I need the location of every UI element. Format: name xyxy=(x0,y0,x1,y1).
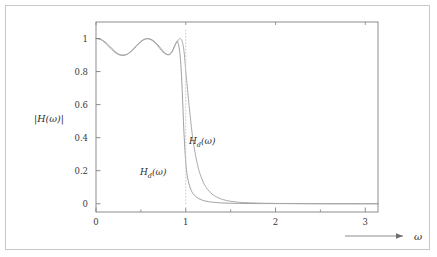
curve-label-hd-right: Hd(ω) xyxy=(189,136,215,149)
x-tick-label: 1 xyxy=(183,217,188,227)
curves-layer xyxy=(96,30,378,203)
y-tick-label: 1 xyxy=(0,34,88,44)
figure-container: |H(ω)| ω Hd(ω) Hd(ω) 012300.20.40.60.81 xyxy=(0,0,437,257)
axes-layer xyxy=(96,22,378,212)
y-tick-label: 0.8 xyxy=(0,67,88,77)
curve-label-arg: (ω) xyxy=(201,136,215,146)
curve-label-hd-left: Hd(ω) xyxy=(140,167,166,180)
x-tick-label: 0 xyxy=(93,217,98,227)
x-axis-arrow xyxy=(345,233,403,239)
x-axis-title: ω xyxy=(414,231,422,242)
y-tick-label: 0.4 xyxy=(0,133,88,143)
y-tick-label: 0.6 xyxy=(0,100,88,110)
y-axis-title: |H(ω)| xyxy=(34,113,64,124)
y-tick-label: 0.2 xyxy=(0,166,88,176)
x-tick-label: 2 xyxy=(273,217,278,227)
curve-label-base: H xyxy=(140,167,148,177)
curve-label-arg: (ω) xyxy=(152,167,166,177)
x-tick-label: 3 xyxy=(363,217,368,227)
y-tick-label: 0 xyxy=(0,199,88,209)
curve-label-base: H xyxy=(189,136,197,146)
